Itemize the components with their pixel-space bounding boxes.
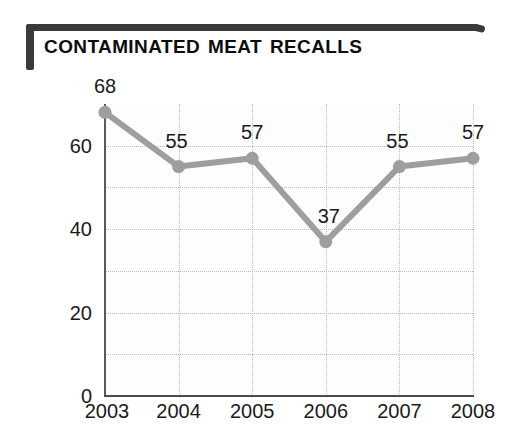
data-point-value-label: 55 [386,130,408,153]
data-point-marker [172,160,185,173]
series-polyline [105,112,473,241]
data-point-value-label: 57 [241,121,263,144]
data-point-marker [319,235,332,248]
data-series-line [0,0,525,433]
data-point-marker [99,106,112,119]
data-point-value-label: 68 [94,75,116,98]
data-point-value-label: 37 [318,205,340,228]
data-point-value-label: 55 [165,130,187,153]
data-point-marker [467,152,480,165]
data-point-value-label: 57 [462,121,484,144]
chart-plot: 0204060 200320042005200620072008 6855573… [0,0,525,433]
data-point-marker [393,160,406,173]
chart-page: Contaminated Meat Recalls 0204060 200320… [0,0,525,433]
data-point-marker [246,152,259,165]
